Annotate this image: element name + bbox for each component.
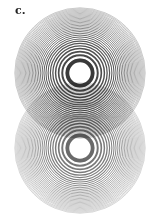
zone-ring [35,103,125,193]
zone-ring [40,108,120,188]
zone-ring [17,85,143,211]
zone-ring [44,112,116,184]
zone-ring [35,28,125,118]
zone-ring [48,116,112,180]
zone-ring [59,127,102,170]
central-ring [68,61,93,86]
zone-plate-diagram [0,0,151,217]
central-ring [68,136,93,161]
zone-ring [17,10,143,136]
